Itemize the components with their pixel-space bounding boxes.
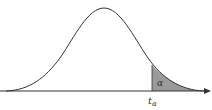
alpha-label: α: [157, 78, 163, 88]
axis-arrow-icon: [204, 88, 211, 94]
density-curve: [6, 8, 204, 91]
t-distribution-diagram: α tα: [0, 0, 212, 110]
critical-value-label: tα: [148, 95, 157, 108]
